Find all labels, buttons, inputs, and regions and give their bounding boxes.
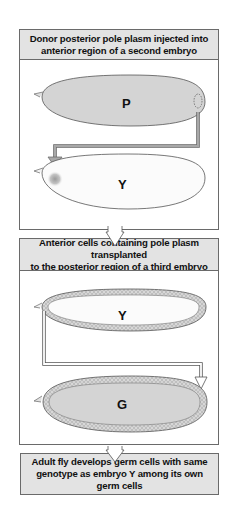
down-arrow-2 — [106, 446, 124, 462]
cellular-embryo-y: Y — [34, 289, 206, 331]
recipient-embryo: G — [34, 376, 207, 432]
donor-embryo: P — [34, 75, 205, 126]
embryo-label-y2: Y — [118, 308, 127, 323]
embryo-label-p: P — [122, 96, 131, 111]
down-arrow-1 — [106, 226, 124, 246]
embryo-label-y1: Y — [118, 177, 127, 192]
embryo-label-g: G — [117, 397, 127, 412]
diagram-canvas: P Y Y G — [0, 0, 230, 508]
injected-pole-plasm — [47, 171, 63, 187]
second-embryo: Y — [34, 154, 205, 209]
